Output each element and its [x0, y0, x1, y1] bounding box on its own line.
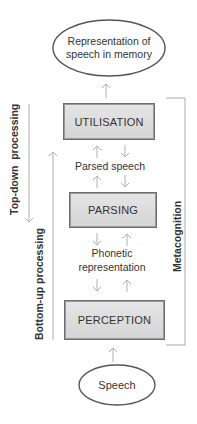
- speech-node: Speech: [79, 379, 155, 392]
- utilisation-box: UTILISATION: [63, 103, 155, 140]
- phonetic-line1: Phonetic: [62, 246, 162, 260]
- phonetic-representation-label: Phonetic representation: [62, 246, 162, 274]
- perception-box: PERCEPTION: [64, 300, 165, 340]
- parsing-box: PARSING: [69, 192, 157, 228]
- parsing-label: PARSING: [88, 204, 138, 216]
- memory-node: Representation of speech in memory: [55, 35, 163, 61]
- bottom-up-label: Bottom-up processing: [33, 228, 45, 340]
- phonetic-line2: representation: [62, 260, 162, 274]
- top-down-label: Top-down processing: [8, 104, 20, 215]
- parsed-speech-text: Parsed speech: [62, 159, 158, 173]
- perception-label: PERCEPTION: [78, 314, 152, 326]
- memory-node-line1: Representation of: [55, 35, 163, 48]
- parsed-speech-label: Parsed speech: [62, 159, 158, 173]
- metacognition-label: Metacognition: [171, 201, 183, 272]
- utilisation-label: UTILISATION: [74, 116, 143, 128]
- memory-node-line2: speech in memory: [55, 48, 163, 61]
- speech-label: Speech: [79, 379, 155, 392]
